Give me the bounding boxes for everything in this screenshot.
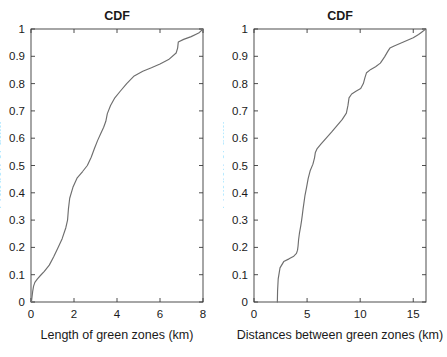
x-tick-label: 6 xyxy=(157,308,163,320)
cdf-figure: 0246800.10.20.30.40.50.60.70.80.91CDFLen… xyxy=(0,0,447,357)
y-tick-label: 0.5 xyxy=(232,160,248,172)
y-axis-label-right: Fraction of data xyxy=(223,122,226,209)
x-tick-label: 4 xyxy=(114,308,121,320)
y-tick-label: 0.2 xyxy=(232,241,248,253)
x-axis-label-right: Distances between green zones (km) xyxy=(237,328,443,342)
y-tick-label: 0.1 xyxy=(232,269,248,281)
y-tick-label: 0.3 xyxy=(232,214,248,226)
x-tick-label: 15 xyxy=(407,308,420,320)
x-tick-label: 10 xyxy=(354,308,367,320)
x-tick-label: 0 xyxy=(28,308,34,320)
y-tick-label: 0.8 xyxy=(232,78,248,90)
chart-panel-right: 05101500.10.20.30.40.50.60.70.80.91CDFDi… xyxy=(223,0,447,357)
plot-title-left: CDF xyxy=(104,9,130,23)
x-tick-label: 8 xyxy=(200,308,206,320)
y-tick-label: 0.8 xyxy=(9,78,25,90)
chart-svg-left: 0246800.10.20.30.40.50.60.70.80.91CDFLen… xyxy=(0,0,224,357)
y-tick-label: 0.2 xyxy=(9,241,25,253)
x-axis-label-left: Length of green zones (km) xyxy=(41,328,194,342)
y-tick-label: 1 xyxy=(19,23,25,35)
y-tick-label: 0.5 xyxy=(9,160,25,172)
chart-panel-left: 0246800.10.20.30.40.50.60.70.80.91CDFLen… xyxy=(0,0,224,357)
y-tick-label: 0.7 xyxy=(9,105,25,117)
y-tick-label: 0.6 xyxy=(9,132,25,144)
x-tick-label: 0 xyxy=(251,308,257,320)
plot-title-right: CDF xyxy=(327,9,353,23)
cdf-curve-right xyxy=(277,29,425,302)
y-tick-label: 0 xyxy=(19,296,25,308)
y-tick-label: 0.9 xyxy=(232,50,248,62)
x-tick-label: 2 xyxy=(71,308,77,320)
y-tick-label: 0.6 xyxy=(232,132,248,144)
plot-box-right xyxy=(254,29,426,302)
y-tick-label: 0.4 xyxy=(9,187,26,199)
y-tick-label: 1 xyxy=(242,23,248,35)
y-tick-label: 0.1 xyxy=(9,269,25,281)
y-tick-label: 0.4 xyxy=(232,187,249,199)
y-tick-label: 0 xyxy=(242,296,248,308)
chart-svg-right: 05101500.10.20.30.40.50.60.70.80.91CDFDi… xyxy=(223,0,447,357)
cdf-curve-left xyxy=(31,29,203,302)
y-axis-label-left: Fraction of data xyxy=(0,122,3,209)
y-tick-label: 0.9 xyxy=(9,50,25,62)
y-tick-label: 0.7 xyxy=(232,105,248,117)
plot-box-left xyxy=(31,29,203,302)
y-tick-label: 0.3 xyxy=(9,214,25,226)
x-tick-label: 5 xyxy=(304,308,310,320)
